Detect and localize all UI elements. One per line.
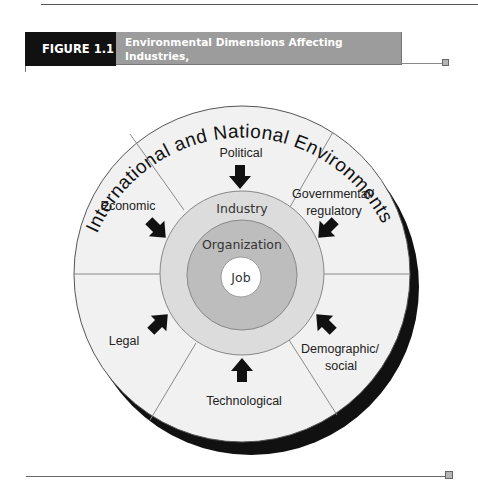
bottom-square-marker [445,471,453,479]
segment-label-economic: Economic [101,199,156,213]
segment-label-political: Political [219,146,262,160]
environment-diagram: Industry Organization Job International … [0,0,478,501]
bottom-rule [26,476,446,477]
segment-label-regulatory: regulatory [306,204,362,218]
job-label: Job [230,270,250,285]
industry-label: Industry [216,201,268,216]
segment-label-social: social [325,359,357,373]
segment-label-demographic: Demographic/ [301,342,379,356]
organization-label: Organization [202,237,282,252]
segment-label-governmental: Governmental/ [292,187,375,201]
segment-label-legal: Legal [109,334,140,348]
segment-label-technological: Technological [206,394,282,408]
